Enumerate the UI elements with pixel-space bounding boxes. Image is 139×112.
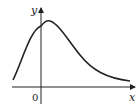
y-axis-label: y — [30, 4, 38, 17]
origin-label: 0 — [32, 92, 38, 103]
function-graph: y x 0 — [0, 0, 139, 112]
x-axis-label: x — [129, 91, 136, 104]
function-curve — [13, 21, 130, 81]
